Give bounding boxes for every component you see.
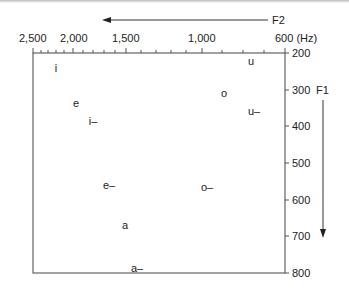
- f1-arrowhead-icon: [320, 229, 326, 238]
- y-tick-label: 600: [292, 194, 310, 206]
- vowel-point-u-bar: u–: [248, 105, 260, 117]
- x-axis-ticks: [33, 48, 285, 53]
- x-tick-label: 1,000: [188, 32, 216, 44]
- vowel-point-i-bar: i–: [89, 115, 98, 127]
- plot-frame: [33, 53, 285, 273]
- vowel-point-o-bar: o–: [201, 181, 213, 193]
- y-tick-label: 800: [292, 267, 310, 279]
- f2-axis-title: F2: [272, 14, 285, 26]
- y-tick-label: 700: [292, 230, 310, 242]
- vowel-point-u: u: [248, 55, 254, 67]
- vowel-point-a: a: [122, 219, 128, 231]
- vowel-point-a-bar: a–: [131, 262, 143, 274]
- y-tick-label: 300: [292, 84, 310, 96]
- x-tick-label: 2,500: [19, 32, 47, 44]
- y-axis-ticks: [285, 53, 289, 273]
- vowel-point-e-bar: e–: [103, 179, 115, 191]
- f2-arrowhead-icon: [102, 17, 111, 23]
- vowel-point-e: e: [73, 97, 79, 109]
- x-tick-label: 2,000: [60, 32, 88, 44]
- f1-axis-title: F1: [316, 84, 329, 96]
- x-tick-label: 600 (Hz): [275, 32, 317, 44]
- y-tick-label: 500: [292, 157, 310, 169]
- vowel-point-o: o: [221, 87, 227, 99]
- x-tick-label: 1,500: [112, 32, 140, 44]
- y-tick-label: 200: [292, 47, 310, 59]
- y-tick-label: 400: [292, 120, 310, 132]
- vowel-point-i: i: [55, 62, 57, 74]
